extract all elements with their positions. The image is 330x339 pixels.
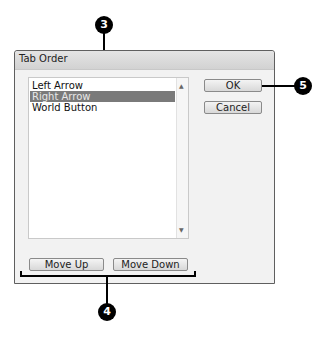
list-scrollbar[interactable]: ▲ ▼	[176, 78, 188, 238]
scroll-up-icon[interactable]: ▲	[179, 83, 184, 89]
callout-4-line	[106, 276, 108, 304]
move-up-button[interactable]: Move Up	[29, 258, 104, 271]
scroll-down-icon[interactable]: ▼	[179, 227, 184, 233]
title-bar[interactable]: Tab Order	[15, 51, 274, 70]
list-item-left-arrow[interactable]: Left Arrow	[30, 80, 175, 91]
callout-4-bracket	[20, 275, 196, 277]
tab-order-listbox[interactable]: Left Arrow Right Arrow World Button ▲ ▼	[28, 77, 189, 239]
list-item-right-arrow[interactable]: Right Arrow	[30, 91, 175, 102]
move-down-button[interactable]: Move Down	[113, 258, 188, 271]
callout-5-badge: 5	[294, 77, 312, 95]
cancel-button[interactable]: Cancel	[204, 101, 262, 114]
callout-4-badge: 4	[98, 303, 116, 321]
ok-button[interactable]: OK	[204, 79, 262, 92]
callout-4-bracket-left	[20, 271, 22, 276]
callout-5-line	[262, 85, 296, 87]
dialog-title: Tab Order	[19, 53, 68, 64]
callout-4-bracket-right	[194, 271, 196, 276]
list-item-world-button[interactable]: World Button	[30, 102, 175, 113]
tab-order-dialog: Tab Order Left Arrow Right Arrow World B…	[14, 50, 275, 284]
callout-3-badge: 3	[95, 16, 113, 34]
